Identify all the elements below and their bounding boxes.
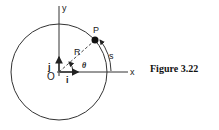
angle-arc — [69, 62, 73, 72]
unit-j-label: j — [47, 62, 51, 72]
unit-i-label: i — [66, 75, 69, 85]
arc-length-label: s — [109, 51, 114, 61]
radius-label: R — [74, 47, 81, 57]
x-axis-label: x — [130, 67, 135, 77]
figure-caption: Figure 3.22 — [150, 63, 198, 74]
angle-label: θ — [82, 61, 87, 70]
origin-label: O — [47, 71, 55, 82]
point-label: P — [93, 25, 99, 35]
point-p — [92, 37, 99, 44]
y-axis-label: y — [62, 3, 67, 13]
